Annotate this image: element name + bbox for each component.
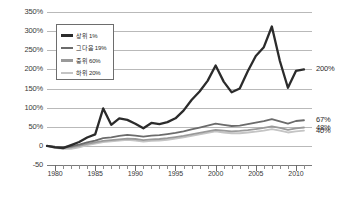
legend-swatch-top1 [61, 34, 73, 38]
y-axis-tick-label: 300% [25, 26, 43, 35]
y-axis-tick-label: 250% [25, 45, 43, 54]
y-axis-tick-label: 50% [29, 122, 43, 131]
x-tick-minor [151, 165, 152, 169]
legend-swatch-bottom20 [61, 72, 73, 75]
y-axis-tick-label: 350% [25, 7, 43, 16]
x-tick-minor [200, 165, 201, 169]
legend-box: 상위 1% 그다음 19% 중위 60% 하위 20% [56, 24, 114, 80]
x-tick-minor [103, 165, 104, 169]
x-axis-tick-label: 1985 [88, 170, 103, 177]
y-axis-tick-label: 150% [25, 84, 43, 93]
x-tick-minor [280, 165, 281, 169]
series-end-label: 40% [316, 126, 330, 135]
x-axis-tick-label: 1990 [128, 170, 143, 177]
x-tick-minor [159, 165, 160, 169]
legend-label-bottom20: 하위 20% [76, 68, 100, 77]
x-tick-minor [240, 165, 241, 169]
legend-label-middle60: 중위 60% [76, 56, 100, 65]
legend-label-next19: 그다음 19% [76, 43, 106, 52]
y-axis-tick-label: 0 [39, 141, 43, 150]
x-tick-minor [79, 165, 80, 169]
x-tick-minor [232, 165, 233, 169]
x-tick-minor [63, 165, 64, 169]
x-tick-minor [224, 165, 225, 169]
x-tick-minor [87, 165, 88, 169]
x-axis-tick-label: 2000 [208, 170, 223, 177]
legend-swatch-middle60 [61, 59, 73, 62]
y-axis-tick-label: -50 [33, 160, 43, 169]
y-axis-tick-label: 200% [25, 64, 43, 73]
x-axis-tick-label: 1995 [168, 170, 183, 177]
legend-item-bottom20: 하위 20% [61, 67, 113, 80]
series-line [47, 119, 304, 147]
x-tick-minor [264, 165, 265, 169]
x-tick-minor [192, 165, 193, 169]
x-axis-tick-label: 1980 [47, 170, 62, 177]
legend-label-top1: 상위 1% [76, 31, 97, 40]
legend-item-middle60: 중위 60% [61, 54, 113, 67]
x-tick-minor [288, 165, 289, 169]
x-tick-minor [208, 165, 209, 169]
x-tick-minor [111, 165, 112, 169]
x-axis-tick-label: 2010 [288, 170, 303, 177]
series-end-label: 200% [316, 64, 334, 73]
x-tick-minor [304, 165, 305, 169]
x-axis-tick-label: 2005 [248, 170, 263, 177]
x-tick-minor [248, 165, 249, 169]
income-growth-line-chart: 350%300%250%200%150%100%50%0-50 19801985… [0, 0, 346, 204]
legend-swatch-next19 [61, 47, 73, 50]
x-tick-minor [143, 165, 144, 169]
x-tick-minor [127, 165, 128, 169]
legend-item-next19: 그다음 19% [61, 42, 113, 55]
x-tick-minor [119, 165, 120, 169]
legend-item-top1: 상위 1% [61, 29, 113, 42]
x-tick-minor [184, 165, 185, 169]
y-axis-tick-label: 100% [25, 103, 43, 112]
x-tick-minor [272, 165, 273, 169]
x-tick-minor [71, 165, 72, 169]
x-tick-minor [167, 165, 168, 169]
